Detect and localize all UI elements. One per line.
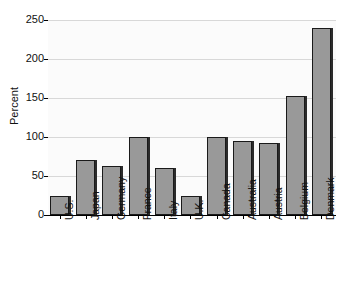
bar-chart: Percent 050100150200250 U.S.JapanGermany… xyxy=(0,0,346,284)
y-tick-label: 200 xyxy=(18,53,44,64)
y-tick-label: 0 xyxy=(18,209,44,220)
x-tick-mark xyxy=(269,215,270,219)
x-tick-mark xyxy=(217,215,218,219)
x-tick-label: France xyxy=(142,187,153,220)
x-tick-label: Australia xyxy=(247,179,258,220)
x-tick-label: Italy xyxy=(168,201,179,220)
x-axis-labels: U.S.JapanGermanyFranceItalyU.K.CanadaAus… xyxy=(48,216,336,284)
x-tick-mark xyxy=(86,215,87,219)
x-tick-label: U.K. xyxy=(194,200,205,220)
x-tick-mark xyxy=(60,215,61,219)
x-tick-label: Japan xyxy=(90,191,101,220)
y-tick-label: 100 xyxy=(18,131,44,142)
x-tick-mark xyxy=(190,215,191,219)
x-tick-mark xyxy=(243,215,244,219)
x-tick-mark xyxy=(138,215,139,219)
bars-container xyxy=(48,20,336,215)
x-tick-label: Austria xyxy=(273,187,284,220)
x-tick-label: Belgium xyxy=(299,182,310,220)
y-tick-label: 150 xyxy=(18,92,44,103)
x-tick-mark xyxy=(321,215,322,219)
y-axis-ticks: 050100150200250 xyxy=(14,0,44,284)
x-tick-mark xyxy=(295,215,296,219)
x-tick-label: Germany xyxy=(116,177,127,220)
x-tick-mark xyxy=(112,215,113,219)
y-tick-label: 250 xyxy=(18,14,44,25)
x-tick-label: Denmark xyxy=(325,177,336,220)
y-tick-label: 50 xyxy=(18,170,44,181)
x-tick-label: U.S. xyxy=(64,200,75,220)
x-tick-mark xyxy=(164,215,165,219)
x-tick-label: Canada xyxy=(221,183,232,220)
